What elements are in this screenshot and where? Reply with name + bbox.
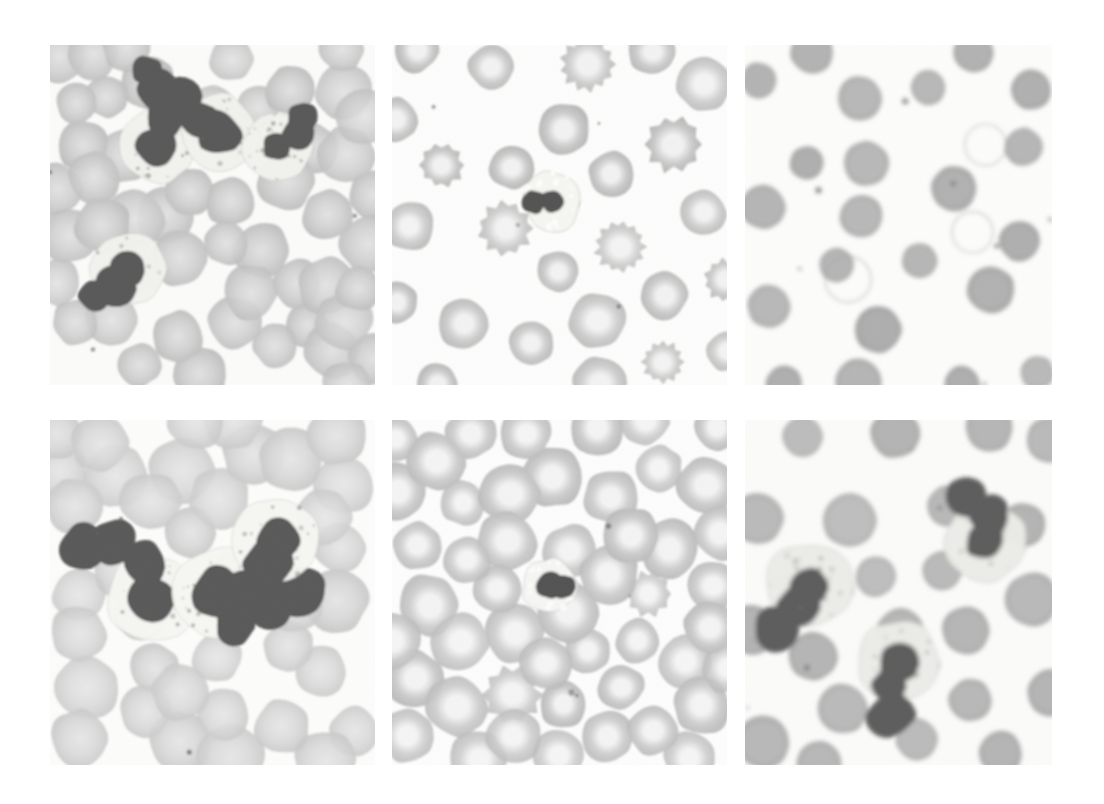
micrograph-panel-f: F <box>745 420 1052 765</box>
micrograph-panel-b: B <box>392 45 727 385</box>
micrograph-field-d <box>50 420 375 765</box>
micrograph-field-b <box>392 45 727 385</box>
micrograph-panel-e: E <box>392 420 727 765</box>
micrograph-panel-a: A <box>50 45 375 385</box>
micrograph-field-a <box>50 45 375 385</box>
figure-root: ABCDEF <box>0 0 1104 804</box>
micrograph-field-f <box>745 420 1052 765</box>
micrograph-field-c <box>745 45 1052 385</box>
micrograph-field-e <box>392 420 727 765</box>
micrograph-panel-d: D <box>50 420 375 765</box>
micrograph-panel-c: C <box>745 45 1052 385</box>
